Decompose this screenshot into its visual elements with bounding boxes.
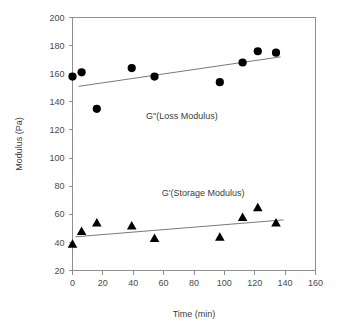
- y-axis-tick-labels: 20406080100120140160180200: [49, 13, 64, 276]
- data-point-circle: [78, 68, 86, 76]
- series-label-0: G"(Loss Modulus): [146, 111, 218, 121]
- data-point-circle: [216, 78, 224, 86]
- x-tick-label: 160: [308, 278, 323, 288]
- x-tick-label: 40: [128, 278, 138, 288]
- data-point-circle: [272, 49, 280, 57]
- data-point-triangle: [253, 203, 263, 212]
- chart-canvas: 20406080100120140160180200 0204060801001…: [0, 0, 342, 326]
- trend-lines: [76, 57, 284, 237]
- data-point-triangle: [150, 234, 160, 243]
- x-tick-label: 80: [189, 278, 199, 288]
- y-tick-label: 180: [49, 41, 64, 51]
- data-point-triangle: [271, 218, 281, 227]
- y-tick-label: 160: [49, 69, 64, 79]
- axis-frame: [73, 18, 316, 271]
- data-point-triangle: [92, 218, 102, 227]
- y-axis-ticks: [69, 18, 73, 271]
- x-tick-label: 120: [247, 278, 262, 288]
- y-tick-label: 140: [49, 97, 64, 107]
- x-axis-title: Time (min): [173, 309, 216, 319]
- x-tick-label: 20: [98, 278, 108, 288]
- y-tick-label: 100: [49, 153, 64, 163]
- x-tick-label: 100: [217, 278, 232, 288]
- y-tick-label: 60: [54, 209, 64, 219]
- x-tick-label: 0: [70, 278, 75, 288]
- data-point-circle: [150, 72, 158, 80]
- series-label-1: G'(Storage Modulus): [162, 188, 245, 198]
- data-point-triangle: [238, 212, 248, 221]
- x-tick-label: 60: [159, 278, 169, 288]
- data-point-triangle: [77, 227, 87, 236]
- y-axis-title: Modulus (Pa): [14, 117, 24, 171]
- series-annotations: G"(Loss Modulus)G'(Storage Modulus): [146, 111, 245, 198]
- x-axis-tick-labels: 020406080100120140160: [70, 278, 323, 288]
- data-markers: [68, 47, 281, 248]
- x-tick-label: 140: [278, 278, 293, 288]
- trend-line-series-0: [79, 57, 281, 87]
- chart-figure: 20406080100120140160180200 0204060801001…: [0, 0, 342, 326]
- data-point-triangle: [127, 221, 137, 230]
- data-point-triangle: [215, 232, 225, 241]
- data-point-circle: [239, 58, 247, 66]
- data-point-circle: [128, 64, 136, 72]
- data-point-circle: [254, 47, 262, 55]
- x-axis-ticks: [73, 271, 316, 275]
- y-tick-label: 120: [49, 125, 64, 135]
- y-tick-label: 20: [54, 266, 64, 276]
- y-tick-label: 200: [49, 13, 64, 23]
- trend-line-series-1: [76, 220, 284, 237]
- data-point-circle: [68, 72, 76, 80]
- data-point-circle: [93, 105, 101, 113]
- data-point-triangle: [68, 239, 78, 248]
- y-tick-label: 80: [54, 181, 64, 191]
- y-tick-label: 40: [54, 238, 64, 248]
